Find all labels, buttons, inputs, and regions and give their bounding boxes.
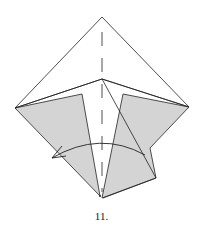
bottom-point <box>99 195 101 197</box>
origami-diagram <box>0 0 203 227</box>
right-gray-flap <box>102 94 189 198</box>
left-gray-flap <box>15 94 100 196</box>
step-number-label: 11. <box>0 210 203 222</box>
